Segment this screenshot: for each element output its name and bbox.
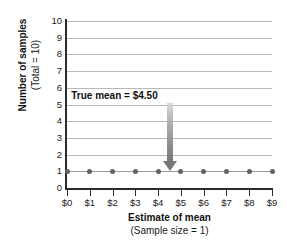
x-axis-line xyxy=(65,188,273,190)
data-point xyxy=(270,169,275,174)
data-point xyxy=(201,169,206,174)
x-axis-tick xyxy=(272,190,273,196)
x-axis-tick xyxy=(113,190,114,196)
x-axis-tick-label: $0 xyxy=(55,197,79,208)
chart-figure: 012345678910 $0$1$2$3$4$5$6$7$8$9 True m… xyxy=(0,0,287,245)
y-axis-tick-label: 2 xyxy=(38,150,62,160)
x-axis-tick-label: $8 xyxy=(237,197,261,208)
y-axis-tick-label: 0 xyxy=(38,183,62,193)
x-axis-tick-label: $4 xyxy=(146,197,170,208)
data-point xyxy=(133,169,138,174)
arrow-head xyxy=(163,161,177,171)
y-axis-title-main: Number of samples xyxy=(16,0,29,145)
x-axis-tick xyxy=(158,190,159,196)
gridline xyxy=(67,21,272,22)
x-axis-title: Estimate of mean (Sample size = 1) xyxy=(67,211,272,237)
data-point xyxy=(65,169,70,174)
series-connector-line xyxy=(67,171,272,172)
gridline xyxy=(67,38,272,39)
x-axis-tick-label: $1 xyxy=(78,197,102,208)
x-axis-tick-label: $6 xyxy=(192,197,216,208)
x-axis-tick-label: $5 xyxy=(169,197,193,208)
gridline xyxy=(67,54,272,55)
annotation-true-mean-label: True mean = $4.50 xyxy=(71,90,157,102)
x-axis-tick xyxy=(204,190,205,196)
y-axis-line xyxy=(65,19,67,190)
data-point xyxy=(224,169,229,174)
data-point xyxy=(247,169,252,174)
arrow-shaft xyxy=(167,103,173,162)
x-axis-tick xyxy=(67,190,68,196)
data-point xyxy=(156,169,161,174)
y-axis-tick-label: 1 xyxy=(38,166,62,176)
gridline xyxy=(67,88,272,89)
x-axis-tick xyxy=(135,190,136,196)
gridline xyxy=(67,71,272,72)
x-axis-title-sub: (Sample size = 1) xyxy=(67,224,272,237)
x-axis-tick xyxy=(249,190,250,196)
y-axis-title: Number of samples (Total = 10) xyxy=(16,0,42,145)
x-axis-tick xyxy=(90,190,91,196)
x-axis-tick-label: $3 xyxy=(123,197,147,208)
x-axis-tick-label: $9 xyxy=(260,197,284,208)
y-axis-title-sub: (Total = 10) xyxy=(29,0,42,145)
data-point xyxy=(110,169,115,174)
x-axis-tick xyxy=(181,190,182,196)
x-axis-tick-label: $2 xyxy=(101,197,125,208)
annotation-arrow-icon xyxy=(163,103,177,171)
x-axis-tick-label: $7 xyxy=(214,197,238,208)
x-axis-title-main: Estimate of mean xyxy=(67,211,272,224)
x-axis-tick xyxy=(226,190,227,196)
